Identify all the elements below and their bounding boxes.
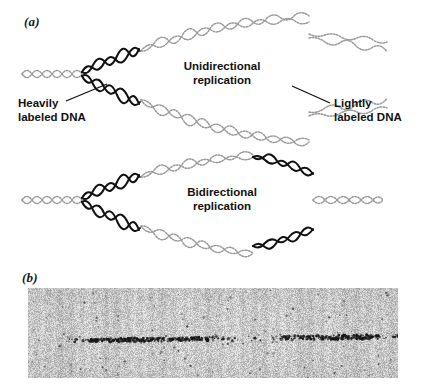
panel-a-label: (a)	[24, 14, 40, 30]
lightly-labeled-line1: Lightly	[334, 97, 402, 111]
bi-lower-arc-light-middle	[141, 226, 253, 257]
lightly-labeled-dna-callout: Lightly labeled DNA	[334, 97, 402, 124]
panel-b-label: (b)	[22, 270, 38, 286]
bi-upper-arc-heavy-left	[82, 174, 140, 199]
bi-lower-arc-heavy-right	[253, 228, 313, 249]
bi-left-flat-duplex	[22, 197, 82, 204]
uni-upper-arc-heavy	[82, 48, 140, 73]
bi-upper-arc-heavy-right	[253, 154, 313, 175]
unidirectional-caption-line1: Unidirectional	[168, 60, 276, 74]
uni-left-flat-duplex	[22, 71, 82, 78]
unidirectional-caption-line2: replication	[168, 74, 276, 88]
heavily-labeled-line2: labeled DNA	[18, 111, 86, 125]
bidirectional-replication-caption: Bidirectional replication	[168, 186, 276, 213]
heavily-labeled-dna-callout: Heavily labeled DNA	[18, 97, 86, 124]
unidirectional-replication-caption: Unidirectional replication	[168, 60, 276, 87]
bidirectional-caption-line1: Bidirectional	[168, 186, 276, 200]
autoradiograph-image	[28, 288, 398, 378]
autoradiograph-panel	[28, 288, 398, 378]
uni-lower-arc-heavy	[82, 75, 140, 105]
bi-right-flat-duplex	[313, 197, 383, 204]
lightly-labeled-line2: labeled DNA	[334, 111, 402, 125]
lightly-labeled-leader-line	[292, 86, 330, 103]
bi-lower-arc-heavy-left	[82, 201, 140, 231]
heavily-labeled-line1: Heavily	[18, 97, 86, 111]
bidirectional-caption-line2: replication	[168, 200, 276, 214]
bi-upper-arc-light-middle	[141, 152, 253, 177]
uni-lower-arc-light	[141, 100, 309, 146]
uni-upper-arc-light	[141, 13, 309, 51]
